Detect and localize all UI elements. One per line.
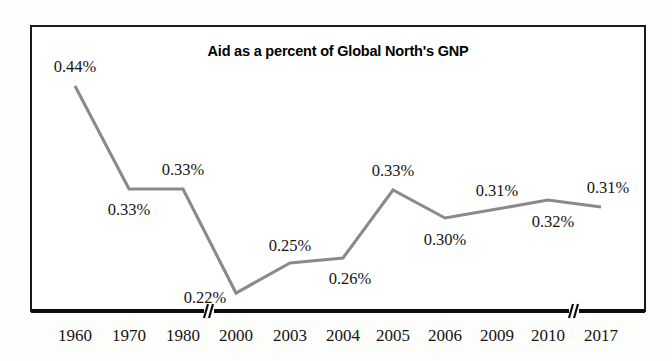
chart-container: Aid as a percent of Global North's GNP 0… [0, 0, 672, 361]
data-label-2005: 0.33% [372, 161, 415, 180]
chart-title: Aid as a percent of Global North's GNP [208, 43, 469, 59]
x-tick-1980: 1980 [166, 326, 200, 345]
x-tick-2009: 2009 [480, 326, 514, 345]
data-label-2000: 0.22% [184, 288, 227, 307]
data-label-1980: 0.33% [162, 160, 205, 179]
x-axis-tick-labels: 1960197019802000200320042005200620092010… [58, 326, 619, 345]
x-tick-2010: 2010 [531, 326, 565, 345]
data-label-2006: 0.30% [424, 230, 467, 249]
x-tick-2017: 2017 [584, 326, 619, 345]
data-label-1970: 0.33% [108, 200, 151, 219]
data-label-2004: 0.26% [329, 269, 372, 288]
line-chart: Aid as a percent of Global North's GNP 0… [0, 0, 672, 361]
x-tick-2005: 2005 [376, 326, 410, 345]
data-label-2017: 0.31% [587, 178, 630, 197]
data-label-2010: 0.32% [532, 212, 575, 231]
x-tick-2004: 2004 [326, 326, 361, 345]
data-label-2003: 0.25% [269, 236, 312, 255]
x-tick-2000: 2000 [219, 326, 253, 345]
x-tick-2006: 2006 [428, 326, 462, 345]
x-tick-1970: 1970 [112, 326, 146, 345]
data-label-1960: 0.44% [54, 57, 97, 76]
data-label-2009: 0.31% [476, 181, 519, 200]
x-tick-2003: 2003 [273, 326, 307, 345]
x-tick-1960: 1960 [58, 326, 92, 345]
